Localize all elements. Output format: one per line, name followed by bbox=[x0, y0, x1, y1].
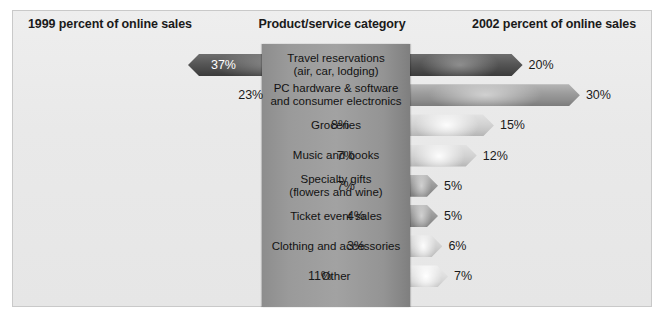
bar-right bbox=[408, 235, 442, 257]
chart-screenshot: 1999 percent of online sales Product/ser… bbox=[0, 0, 671, 320]
value-label-left: 8% bbox=[305, 114, 349, 136]
value-label-right: 7% bbox=[454, 265, 498, 287]
chart-row: 8%15%Groceries bbox=[12, 110, 652, 140]
value-label-left: 4% bbox=[321, 205, 365, 227]
value-label-left: 37% bbox=[196, 54, 236, 76]
value-label-right: 20% bbox=[529, 54, 573, 76]
value-label-right: 12% bbox=[483, 145, 527, 167]
bar-right bbox=[408, 265, 448, 287]
value-label-left: 7% bbox=[311, 175, 355, 197]
value-label-right: 5% bbox=[444, 175, 488, 197]
bar-right bbox=[408, 54, 523, 76]
value-label-left: 7% bbox=[311, 145, 355, 167]
chart-row: 7%5%Specialty gifts(flowers and wine) bbox=[12, 171, 652, 201]
value-label-left: 11% bbox=[288, 265, 332, 287]
value-label-right: 5% bbox=[444, 205, 488, 227]
chart-row: 3%6%Clothing and accessories bbox=[12, 231, 652, 261]
value-label-right: 30% bbox=[586, 84, 630, 106]
value-label-right: 15% bbox=[500, 114, 544, 136]
bar-right bbox=[408, 145, 477, 167]
header-left-label: 1999 percent of online sales bbox=[28, 17, 192, 31]
value-label-right: 6% bbox=[448, 235, 492, 257]
tornado-chart: 37%20%Travel reservations(air, car, lodg… bbox=[12, 44, 652, 307]
bar-right bbox=[408, 114, 494, 136]
value-label-left: 3% bbox=[321, 235, 365, 257]
bar-right bbox=[408, 84, 580, 106]
column-headers: 1999 percent of online sales Product/ser… bbox=[12, 17, 652, 37]
header-right-label: 2002 percent of online sales bbox=[472, 17, 636, 31]
value-label-left: 23% bbox=[219, 84, 263, 106]
chart-row: 4%5%Ticket event sales bbox=[12, 201, 652, 231]
bar-right bbox=[408, 205, 438, 227]
bar-right bbox=[408, 175, 438, 197]
header-center-label: Product/service category bbox=[259, 17, 406, 31]
chart-row: 7%12%Music and books bbox=[12, 141, 652, 171]
